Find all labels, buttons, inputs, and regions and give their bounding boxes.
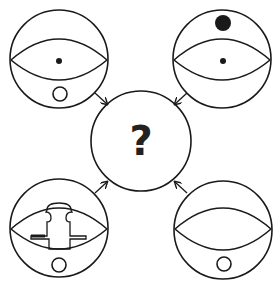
arrow-bottom-left (95, 182, 107, 193)
arrow-top-right (175, 93, 187, 104)
question-mark: ? (111, 114, 171, 168)
puzzle-diagram: ? (0, 0, 278, 283)
panel-top-left (10, 10, 108, 108)
cross-shape-icon (31, 203, 86, 249)
hollow-circle-icon (217, 257, 231, 271)
arrow-bottom-right (175, 182, 187, 193)
center-dot-icon (56, 58, 62, 64)
panel-bottom-right (174, 181, 272, 279)
black-dot-icon (215, 15, 231, 31)
hollow-circle-icon (53, 87, 67, 101)
center-dot-icon (220, 58, 226, 64)
hollow-circle-icon (52, 258, 66, 272)
panel-bottom-left (10, 179, 108, 277)
arrow-top-left (95, 93, 107, 104)
panel-top-right (173, 10, 271, 108)
